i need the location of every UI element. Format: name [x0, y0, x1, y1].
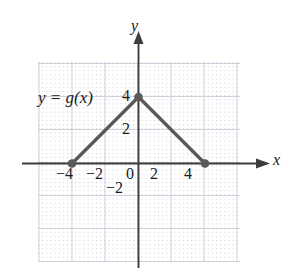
- endpoint-right: [201, 159, 210, 168]
- graph-figure: y = g(x) y x −4 −2 0 2 4 4 2 −2: [0, 0, 298, 277]
- tick-label-x-zero: 0: [126, 166, 134, 182]
- tick-label-x-neg2: −2: [86, 166, 103, 182]
- axis-x-label: x: [273, 152, 280, 168]
- tick-label-x-neg4: −4: [56, 166, 73, 182]
- tick-label-x-4: 4: [184, 166, 192, 182]
- tick-label-y-4: 4: [122, 88, 130, 104]
- function-label: y = g(x): [38, 89, 93, 106]
- vertex-apex: [134, 93, 143, 102]
- coordinate-plane: [0, 0, 298, 277]
- tick-label-x-2: 2: [150, 166, 158, 182]
- tick-label-y-neg2: −2: [106, 180, 123, 196]
- tick-label-y-2: 2: [122, 121, 130, 137]
- axis-y-label: y: [131, 18, 138, 34]
